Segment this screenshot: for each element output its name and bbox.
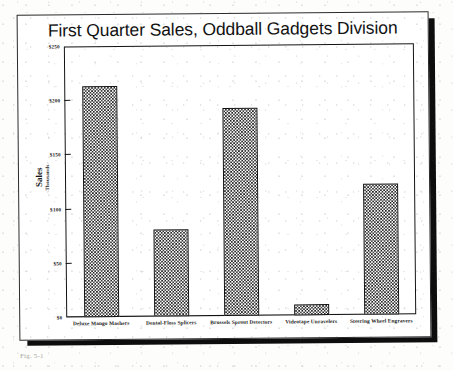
- y-axis-tick-mark: [64, 100, 70, 101]
- y-axis-title-main: Sales: [34, 168, 44, 188]
- y-axis-tick-mark: [65, 154, 71, 155]
- y-axis-tick-label: $50: [53, 260, 61, 266]
- chart-title: First Quarter Sales, Oddball Gadgets Div…: [18, 17, 428, 42]
- y-axis-tick-mark: [66, 263, 72, 264]
- y-axis-tick-label: $200: [49, 98, 60, 104]
- x-axis-tick-label: Brussels Sprout Detectors: [210, 319, 272, 326]
- x-axis-tick-label: Steering Wheel Engravers: [350, 317, 413, 324]
- chart-figure: First Quarter Sales, Oddball Gadgets Div…: [17, 11, 432, 341]
- x-axis-tick-label: Deluxe Mango Mashers: [73, 320, 130, 326]
- y-axis-tick-label: $250: [49, 43, 60, 49]
- plot-area: [64, 43, 416, 317]
- page-caption: Fig. 5-1: [20, 352, 44, 360]
- y-axis-tick-label: $0: [57, 314, 63, 320]
- y-axis-title: Sales Thousands: [27, 164, 57, 190]
- x-axis-tick-label: Dental-Floss Splicers: [146, 319, 197, 325]
- y-axis-tick-label: $100: [50, 206, 61, 212]
- y-axis-tick-mark: [65, 208, 71, 209]
- x-axis-tick-label: Videotape Unravelers: [285, 318, 337, 324]
- scanned-page: First Quarter Sales, Oddball Gadgets Div…: [0, 0, 454, 371]
- y-axis-tick-label: $150: [50, 152, 61, 158]
- x-axis-labels: Deluxe Mango MashersDental-Floss Splicer…: [66, 317, 416, 336]
- y-axis-title-units: Thousands: [45, 164, 50, 190]
